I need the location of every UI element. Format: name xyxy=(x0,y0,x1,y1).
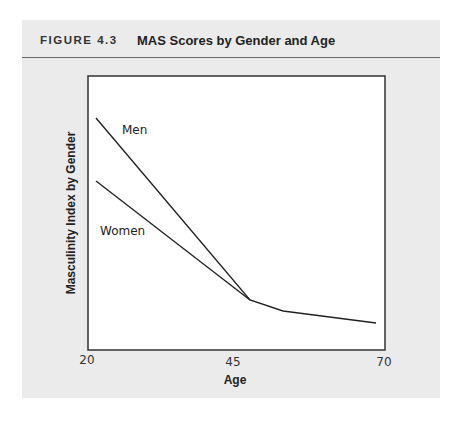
men-label: Men xyxy=(122,123,147,137)
x-axis-label: Age xyxy=(224,373,247,387)
line-chart: Men Women 20 45 70 Age Masculinity Index… xyxy=(0,0,461,426)
x-tick-45: 45 xyxy=(225,355,240,369)
y-axis-label: Masculinity Index by Gender xyxy=(64,131,78,294)
women-label: Women xyxy=(100,224,145,238)
plot-area xyxy=(88,76,385,350)
x-tick-20: 20 xyxy=(79,353,94,367)
x-tick-70: 70 xyxy=(376,355,391,369)
